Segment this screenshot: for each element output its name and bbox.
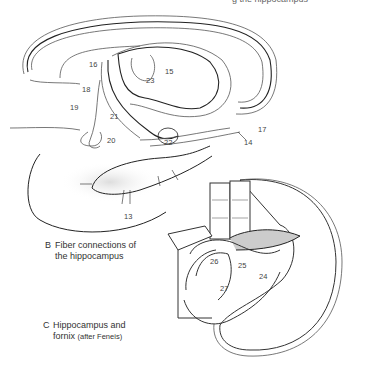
- label-25: 25: [238, 262, 246, 270]
- label-15: 15: [165, 68, 173, 76]
- figure-c-caption-line1: Hippocampus and: [53, 320, 126, 330]
- label-26: 26: [210, 258, 218, 266]
- label-14: 14: [244, 139, 252, 147]
- figure-c-caption-note: (after Feneis): [78, 332, 123, 341]
- hippocampus-diagram: [0, 0, 367, 370]
- figure-b-letter: B: [45, 240, 55, 251]
- figure-c-caption: CHippocampus and fornix (after Feneis): [43, 320, 126, 343]
- label-27: 27: [220, 285, 228, 293]
- figure-c-letter: C: [43, 320, 53, 331]
- figure-b-caption: BFiber connections of the hippocampus: [45, 240, 136, 263]
- label-17: 17: [258, 126, 266, 134]
- label-19: 19: [70, 104, 78, 112]
- label-22: 22: [164, 139, 172, 147]
- figure-b-caption-line2: the hippocampus: [55, 251, 124, 261]
- figure-c-caption-line2: fornix: [53, 331, 75, 341]
- figure-b-caption-line1: Fiber connections of: [55, 240, 136, 250]
- label-24: 24: [259, 273, 267, 281]
- label-23: 23: [146, 77, 154, 85]
- label-20: 20: [107, 137, 115, 145]
- label-16: 16: [89, 61, 97, 69]
- label-13: 13: [124, 213, 132, 221]
- figure-c-drawing: [168, 179, 342, 356]
- label-18: 18: [82, 86, 90, 94]
- label-21: 21: [110, 113, 118, 121]
